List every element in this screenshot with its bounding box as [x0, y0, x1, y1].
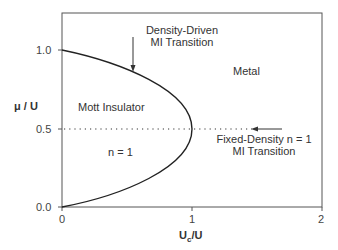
fixed-density-line1: Fixed-Density n = 1 — [208, 133, 320, 145]
x-tick-label-2: 2 — [318, 213, 324, 225]
fixed-density-annotation: Fixed-Density n = 1 MI Transition — [208, 133, 320, 157]
mott-insulator-region-label: Mott Insulator — [78, 101, 145, 113]
y-tick-label-05: 0.5 — [36, 123, 51, 135]
x-axis-title-tail: /U — [191, 229, 202, 241]
density-driven-line2: MI Transition — [137, 36, 227, 48]
arrow-left-icon — [251, 127, 258, 132]
density-driven-annotation: Density-Driven MI Transition — [137, 24, 227, 48]
n-equals-1-label: n = 1 — [108, 146, 133, 158]
y-axis-title: μ / U — [14, 100, 38, 112]
density-driven-line1: Density-Driven — [137, 24, 227, 36]
x-axis-title: Uc/U — [179, 229, 202, 244]
x-axis-title-main: U — [179, 229, 187, 241]
metal-region-label: Metal — [233, 65, 260, 77]
fixed-density-line2: MI Transition — [208, 145, 320, 157]
y-tick-label-0: 0.0 — [36, 201, 51, 213]
y-tick-label-1: 1.0 — [36, 44, 51, 56]
x-tick-label-1: 1 — [189, 213, 195, 225]
x-tick-label-0: 0 — [59, 213, 65, 225]
